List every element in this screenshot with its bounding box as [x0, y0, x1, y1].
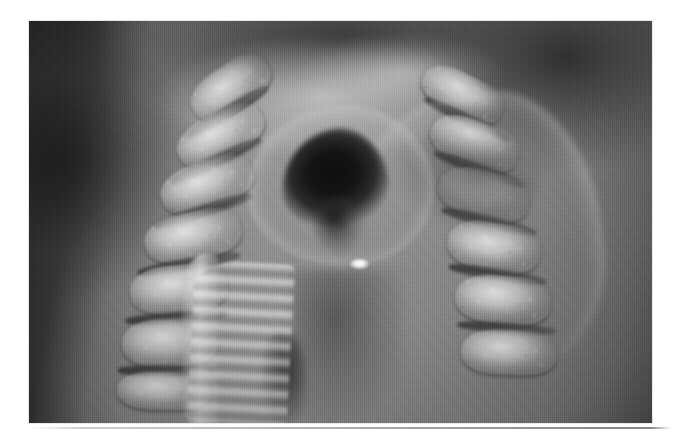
tracheal-rings: [187, 260, 295, 423]
anatomical-specimen-photograph: [29, 21, 652, 423]
posterior-wall: [291, 270, 403, 423]
scan-shadow-line: [30, 427, 670, 429]
page-canvas: [0, 0, 684, 436]
